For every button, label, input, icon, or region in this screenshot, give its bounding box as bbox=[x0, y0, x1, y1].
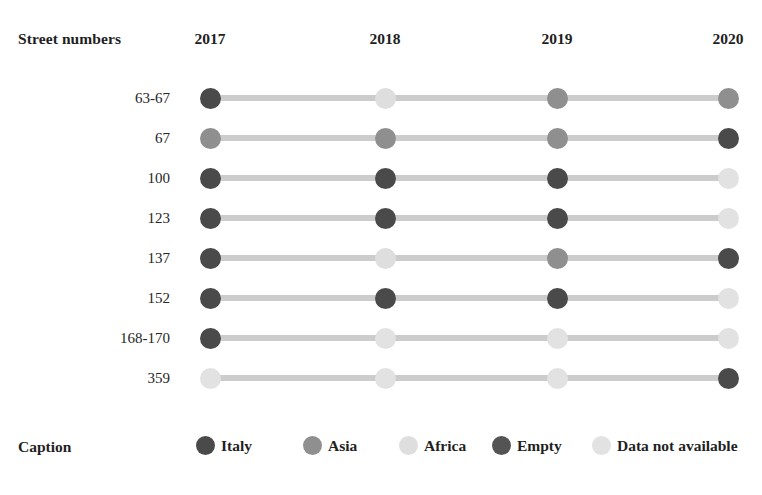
legend-item-data-not-available[interactable]: Data not available bbox=[592, 436, 738, 455]
data-point-marker bbox=[718, 288, 739, 309]
chart-row: 123 bbox=[0, 198, 762, 238]
data-point-marker bbox=[375, 328, 396, 349]
legend-swatch-icon bbox=[399, 436, 418, 455]
legend-label: Data not available bbox=[617, 437, 738, 455]
data-point-marker bbox=[200, 288, 221, 309]
row-label: 359 bbox=[0, 370, 170, 387]
data-point-marker bbox=[718, 88, 739, 109]
legend-label: Asia bbox=[328, 437, 357, 455]
legend-label: Italy bbox=[221, 437, 252, 455]
chart-row: 137 bbox=[0, 238, 762, 278]
data-point-marker bbox=[375, 288, 396, 309]
row-connector-line bbox=[210, 175, 728, 181]
data-point-marker bbox=[200, 128, 221, 149]
footnote-clipped bbox=[0, 482, 762, 495]
row-connector-line bbox=[210, 135, 728, 141]
row-connector-line bbox=[210, 375, 728, 381]
data-point-marker bbox=[547, 288, 568, 309]
legend-swatch-icon bbox=[196, 436, 215, 455]
data-point-marker bbox=[718, 208, 739, 229]
row-connector-line bbox=[210, 255, 728, 261]
row-label: 168-170 bbox=[0, 330, 170, 347]
data-point-marker bbox=[375, 248, 396, 269]
row-label: 63-67 bbox=[0, 90, 170, 107]
data-point-marker bbox=[200, 168, 221, 189]
legend-item-empty[interactable]: Empty bbox=[492, 436, 562, 455]
chart-row: 67 bbox=[0, 118, 762, 158]
data-point-marker bbox=[547, 208, 568, 229]
data-point-marker bbox=[200, 368, 221, 389]
data-point-marker bbox=[375, 208, 396, 229]
row-label: 123 bbox=[0, 210, 170, 227]
legend-label: Empty bbox=[517, 437, 562, 455]
data-point-marker bbox=[547, 248, 568, 269]
data-point-marker bbox=[547, 328, 568, 349]
legend-label: Africa bbox=[424, 437, 466, 455]
data-point-marker bbox=[718, 328, 739, 349]
legend-swatch-icon bbox=[492, 436, 511, 455]
row-connector-line bbox=[210, 215, 728, 221]
chart-row: 359 bbox=[0, 358, 762, 398]
data-point-marker bbox=[718, 368, 739, 389]
row-connector-line bbox=[210, 95, 728, 101]
data-point-marker bbox=[200, 88, 221, 109]
data-point-marker bbox=[547, 168, 568, 189]
data-point-marker bbox=[547, 128, 568, 149]
data-point-marker bbox=[718, 248, 739, 269]
legend-item-asia[interactable]: Asia bbox=[303, 436, 357, 455]
data-point-marker bbox=[200, 328, 221, 349]
dumbbell-chart: Street numbers 2017201820192020 63-67671… bbox=[0, 0, 762, 495]
legend-item-africa[interactable]: Africa bbox=[399, 436, 466, 455]
row-label: 100 bbox=[0, 170, 170, 187]
legend-swatch-icon bbox=[303, 436, 322, 455]
legend: Caption ItalyAsiaAfricaEmptyData not ava… bbox=[0, 432, 762, 466]
data-point-marker bbox=[718, 168, 739, 189]
legend-item-italy[interactable]: Italy bbox=[196, 436, 252, 455]
data-point-marker bbox=[547, 368, 568, 389]
data-point-marker bbox=[375, 128, 396, 149]
data-point-marker bbox=[375, 88, 396, 109]
plot-area: 63-6767100123137152168-170359 bbox=[0, 0, 762, 420]
data-point-marker bbox=[375, 168, 396, 189]
row-label: 152 bbox=[0, 290, 170, 307]
data-point-marker bbox=[200, 248, 221, 269]
row-label: 67 bbox=[0, 130, 170, 147]
data-point-marker bbox=[718, 128, 739, 149]
legend-title: Caption bbox=[18, 438, 188, 456]
row-connector-line bbox=[210, 335, 728, 341]
chart-row: 63-67 bbox=[0, 78, 762, 118]
data-point-marker bbox=[547, 88, 568, 109]
data-point-marker bbox=[375, 368, 396, 389]
row-label: 137 bbox=[0, 250, 170, 267]
data-point-marker bbox=[200, 208, 221, 229]
chart-row: 168-170 bbox=[0, 318, 762, 358]
chart-row: 100 bbox=[0, 158, 762, 198]
row-connector-line bbox=[210, 295, 728, 301]
legend-swatch-icon bbox=[592, 436, 611, 455]
chart-row: 152 bbox=[0, 278, 762, 318]
